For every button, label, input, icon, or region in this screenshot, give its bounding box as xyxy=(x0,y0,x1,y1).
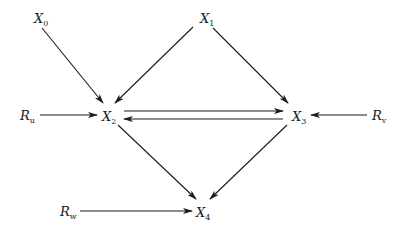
node-x4: X4 xyxy=(195,205,210,222)
node-ru: Ru xyxy=(19,108,35,125)
node-x3: X3 xyxy=(291,109,306,126)
causal-diagram: X0 X1 Ru X2 X3 Rv Rw X4 xyxy=(0,0,405,231)
node-x1: X1 xyxy=(199,11,214,28)
edge-x0-to-x2 xyxy=(42,28,103,103)
node-rv: Rv xyxy=(371,108,387,125)
node-rw: Rw xyxy=(59,204,77,221)
node-x0: X0 xyxy=(33,11,48,28)
edge-x1-to-x2 xyxy=(115,27,193,103)
edge-x1-to-x3 xyxy=(213,28,288,103)
edge-x2-to-x4 xyxy=(118,125,196,199)
edge-x3-to-x4 xyxy=(210,125,287,199)
node-x2: X2 xyxy=(101,109,116,126)
edges xyxy=(40,27,367,211)
nodes: X0 X1 Ru X2 X3 Rv Rw X4 xyxy=(19,11,387,222)
